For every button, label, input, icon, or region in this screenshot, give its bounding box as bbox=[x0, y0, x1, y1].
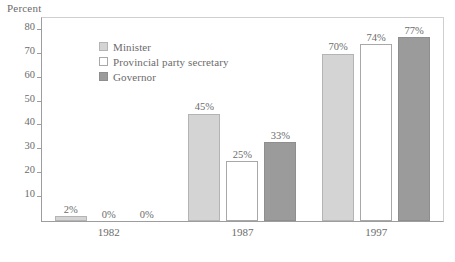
bar-value-label: 0% bbox=[140, 210, 154, 221]
legend-item: Minister bbox=[99, 40, 229, 53]
bar-value-label: 33% bbox=[271, 131, 290, 142]
legend-item-label: Minister bbox=[113, 41, 151, 53]
legend-swatch-icon bbox=[99, 57, 108, 66]
y-axis-tick-label: 70 bbox=[14, 45, 35, 56]
legend-item: Governor bbox=[99, 70, 229, 83]
legend-item-label: Provincial party secretary bbox=[113, 56, 229, 68]
bar-column[interactable]: 0% bbox=[131, 210, 163, 222]
y-axis-tick-label: 80 bbox=[14, 21, 35, 32]
bar-value-label: 70% bbox=[329, 42, 348, 53]
bar-column[interactable]: 0% bbox=[93, 210, 125, 222]
bar[interactable] bbox=[322, 54, 354, 221]
bar[interactable] bbox=[188, 114, 220, 221]
bar-value-label: 77% bbox=[405, 26, 424, 37]
bar-value-label: 0% bbox=[102, 210, 116, 221]
legend-swatch-icon bbox=[99, 42, 108, 51]
bar-column[interactable]: 2% bbox=[55, 205, 87, 221]
bar-value-label: 25% bbox=[233, 150, 252, 161]
y-axis-tick-label: 30 bbox=[14, 140, 35, 151]
bar[interactable] bbox=[398, 37, 430, 221]
bar-chart: Percent 1020304050607080 2%0%0%45%25%33%… bbox=[0, 0, 455, 262]
x-axis-category-label: 1997 bbox=[309, 226, 443, 238]
y-axis-tick-label: 60 bbox=[14, 69, 35, 80]
bar-value-label: 45% bbox=[195, 102, 214, 113]
y-axis-caption: Percent bbox=[7, 2, 41, 14]
bar-column[interactable]: 70% bbox=[322, 42, 354, 221]
bar-value-label: 74% bbox=[367, 33, 386, 44]
y-axis-tick-label: 20 bbox=[14, 164, 35, 175]
y-axis-tick-label: 40 bbox=[14, 116, 35, 127]
bar-column[interactable]: 45% bbox=[188, 102, 220, 221]
bar-column[interactable]: 74% bbox=[360, 33, 392, 221]
x-axis-category-label: 1982 bbox=[42, 226, 176, 238]
bar[interactable] bbox=[226, 161, 258, 221]
plot-area: 1020304050607080 2%0%0%45%25%33%70%74%77… bbox=[41, 17, 444, 222]
y-axis-tick-label: 50 bbox=[14, 93, 35, 104]
y-axis-tick-label: 10 bbox=[14, 188, 35, 199]
bar-column[interactable]: 25% bbox=[226, 150, 258, 221]
chart-legend: MinisterProvincial party secretaryGovern… bbox=[99, 40, 229, 83]
x-axis-category-label: 1987 bbox=[176, 226, 310, 238]
bar[interactable] bbox=[264, 142, 296, 221]
legend-swatch-icon bbox=[99, 72, 108, 81]
legend-item-label: Governor bbox=[113, 71, 156, 83]
bar-group: 70%74%77% bbox=[309, 18, 443, 221]
bar-value-label: 2% bbox=[64, 205, 78, 216]
bar[interactable] bbox=[360, 44, 392, 221]
bar-column[interactable]: 77% bbox=[398, 26, 430, 221]
bar-column[interactable]: 33% bbox=[264, 131, 296, 221]
legend-item: Provincial party secretary bbox=[99, 55, 229, 68]
bar[interactable] bbox=[55, 216, 87, 221]
